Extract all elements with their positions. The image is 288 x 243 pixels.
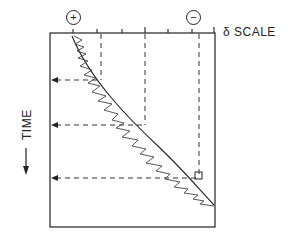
arrowheads	[51, 77, 58, 181]
scale-ticks	[73, 27, 214, 33]
trend-line	[72, 36, 214, 205]
minus-symbol: −	[186, 10, 201, 25]
horizontal-guides	[56, 80, 199, 178]
plot-frame	[50, 33, 215, 227]
time-arrowhead	[23, 166, 29, 175]
time-label: TIME	[20, 109, 34, 140]
sawtooth-record	[74, 36, 214, 206]
scale-label: δ SCALE	[223, 25, 276, 39]
plus-symbol: +	[66, 10, 81, 25]
